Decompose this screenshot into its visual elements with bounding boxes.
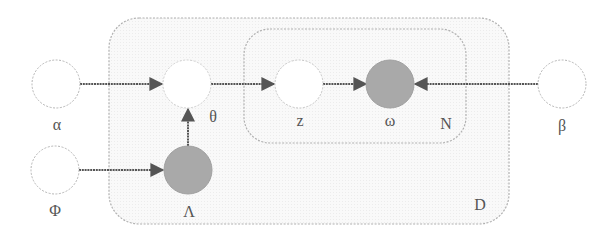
label-z: z — [296, 113, 303, 129]
graphical-model-diagram: α Φ θ Λ z ω β N D — [0, 0, 616, 239]
label-beta: β — [558, 118, 566, 134]
label-theta: θ — [209, 109, 217, 125]
node-z — [275, 60, 323, 108]
node-omega — [366, 60, 414, 108]
node-beta — [538, 60, 586, 108]
plate-label-n: N — [440, 116, 452, 132]
label-omega: ω — [385, 113, 396, 129]
diagram-canvas — [0, 0, 616, 239]
node-lambda — [164, 146, 212, 194]
node-phi — [31, 146, 79, 194]
plate-label-d: D — [474, 197, 486, 213]
label-phi: Φ — [49, 203, 61, 219]
label-alpha: α — [53, 117, 61, 133]
node-alpha — [32, 60, 80, 108]
node-theta — [163, 60, 211, 108]
label-lambda: Λ — [183, 204, 195, 220]
